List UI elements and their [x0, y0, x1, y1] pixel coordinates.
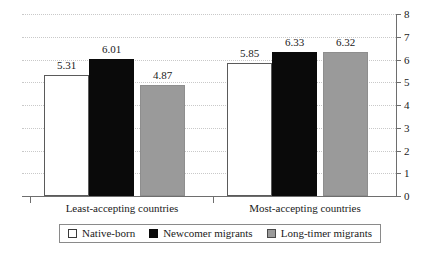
bar-value-label: 6.01 — [89, 44, 134, 55]
legend-item-newcomer[interactable]: Newcomer migrants — [149, 227, 253, 239]
y-tick-0 — [396, 196, 401, 197]
bar-chart: 5.316.014.875.856.336.32 012345678 Least… — [0, 0, 435, 255]
legend-item-native[interactable]: Native-born — [68, 227, 135, 239]
chart-legend: Native-bornNewcomer migrantsLong-timer m… — [59, 224, 381, 243]
y-tick-label-5: 5 — [404, 77, 410, 88]
x-axis-start-tick — [30, 196, 31, 203]
bar-value-label: 5.31 — [44, 60, 89, 71]
y-tick-7 — [396, 37, 401, 38]
y-tick-label-4: 4 — [404, 100, 410, 111]
category-label-least-accepting: Least-accepting countries — [32, 202, 212, 215]
bar-newcomer-most-accepting[interactable] — [272, 52, 317, 196]
legend-swatch-newcomer-icon — [149, 229, 158, 238]
y-tick-8 — [396, 14, 401, 15]
bar-native-most-accepting[interactable] — [227, 63, 272, 196]
bar-value-label: 4.87 — [140, 70, 185, 81]
y-tick-label-0: 0 — [404, 191, 410, 202]
legend-label: Long-timer migrants — [281, 227, 372, 239]
bar-longtimer-least-accepting[interactable] — [140, 85, 185, 196]
y-tick-3 — [396, 128, 401, 129]
bar-value-label: 6.32 — [323, 37, 368, 48]
category-label-most-accepting: Most-accepting countries — [215, 202, 395, 215]
y-tick-4 — [396, 105, 401, 106]
x-axis-line — [22, 196, 396, 197]
legend-label: Native-born — [82, 227, 135, 239]
y-tick-2 — [396, 151, 401, 152]
y-tick-label-1: 1 — [404, 168, 410, 179]
legend-swatch-longtimer-icon — [267, 229, 276, 238]
bar-longtimer-most-accepting[interactable] — [323, 52, 368, 196]
bar-native-least-accepting[interactable] — [44, 75, 89, 196]
bar-value-label: 6.33 — [272, 37, 317, 48]
y-tick-6 — [396, 60, 401, 61]
plot-area: 5.316.014.875.856.336.32 — [30, 14, 396, 196]
category-separator-tick — [213, 196, 214, 203]
y-tick-1 — [396, 173, 401, 174]
legend-swatch-native-icon — [68, 229, 77, 238]
y-tick-label-2: 2 — [404, 145, 410, 156]
bar-newcomer-least-accepting[interactable] — [89, 59, 134, 196]
legend-item-longtimer[interactable]: Long-timer migrants — [267, 227, 372, 239]
y-tick-label-8: 8 — [404, 9, 410, 20]
bar-value-label: 5.85 — [227, 48, 272, 59]
y-tick-label-3: 3 — [404, 122, 410, 133]
y-tick-label-7: 7 — [404, 31, 410, 42]
y-tick-label-6: 6 — [404, 54, 410, 65]
legend-label: Newcomer migrants — [163, 227, 253, 239]
y-tick-5 — [396, 82, 401, 83]
